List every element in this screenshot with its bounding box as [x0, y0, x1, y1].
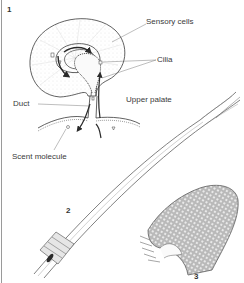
vomeronasal-organ-drawing [30, 19, 156, 150]
label-duct: Duct [13, 100, 29, 108]
panel-number-1: 1 [7, 6, 11, 14]
label-scent-molecule: Scent molecule [12, 153, 67, 161]
label-sensory-cells: Sensory cells [146, 18, 194, 26]
label-upper-palate: Upper palate [126, 96, 172, 104]
label-cilia: Cilia [157, 56, 173, 64]
panel-number-3: 3 [194, 273, 198, 281]
figure-frame: 1 Sensory cells Cilia Duct Upper palate … [0, 0, 244, 283]
tongue-tip-drawing [140, 185, 238, 275]
illustration-canvas [0, 0, 244, 283]
panel-number-2: 2 [66, 207, 70, 215]
